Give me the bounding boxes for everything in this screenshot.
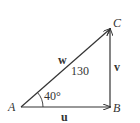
triangle-diagram: A B C u v w 130 40° — [0, 0, 140, 123]
vector-w-arrow — [21, 29, 110, 107]
vertex-a-label: A — [7, 100, 16, 114]
angle-label: 40° — [44, 89, 61, 103]
vector-w-label: w — [58, 53, 67, 67]
vertex-c-label: C — [113, 16, 122, 30]
vector-v-label: v — [114, 60, 120, 74]
angle-arc — [38, 93, 44, 108]
vector-u-label: u — [61, 110, 68, 123]
magnitude-label: 130 — [71, 64, 89, 78]
vertex-b-label: B — [113, 101, 121, 115]
